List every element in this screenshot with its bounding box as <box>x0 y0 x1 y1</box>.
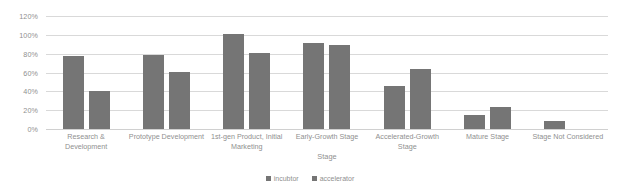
bar-incubtor[interactable] <box>544 121 565 129</box>
bar-incubtor[interactable] <box>303 43 324 129</box>
bar-group <box>46 16 126 129</box>
bar-incubtor[interactable] <box>143 55 164 129</box>
y-axis-tick-label: 80% <box>23 49 38 58</box>
bar-groups <box>46 16 608 129</box>
bar-accelerator[interactable] <box>329 45 350 129</box>
bar-group <box>287 16 367 129</box>
bar-accelerator[interactable] <box>249 53 270 129</box>
legend-label: incubtor <box>274 175 299 182</box>
y-axis-tick-label: 60% <box>23 68 38 77</box>
legend-item[interactable]: incubtor <box>266 175 299 182</box>
bar-group <box>447 16 527 129</box>
bar-accelerator[interactable] <box>89 91 110 129</box>
x-axis-category-label: Early-Growth Stage <box>287 132 367 151</box>
legend-swatch-icon <box>312 176 317 181</box>
y-axis-tick-label: 100% <box>19 30 38 39</box>
bar-accelerator[interactable] <box>410 69 431 129</box>
x-axis-category-label: Research & Development <box>46 132 126 151</box>
bar-group <box>367 16 447 129</box>
y-axis-tick-label: 20% <box>23 106 38 115</box>
bar-incubtor[interactable] <box>464 115 485 129</box>
legend-item[interactable]: accelerator <box>312 175 355 182</box>
bar-incubtor[interactable] <box>223 34 244 129</box>
y-axis: 120%100%80%60%40%20%0% <box>0 16 44 129</box>
bar-accelerator[interactable] <box>490 107 511 129</box>
bar-group <box>207 16 287 129</box>
bar-chart: 120%100%80%60%40%20%0% Research & Develo… <box>0 0 620 191</box>
axis-baseline <box>46 129 608 130</box>
bar-group <box>126 16 206 129</box>
x-axis-labels: Research & DevelopmentPrototype Developm… <box>46 132 608 151</box>
bar-accelerator[interactable] <box>169 72 190 129</box>
bar-group <box>528 16 608 129</box>
x-axis-category-label: Mature Stage <box>447 132 527 151</box>
bar-incubtor[interactable] <box>384 86 405 129</box>
x-axis-category-label: 1st-gen Product, Initial Marketing <box>207 132 287 151</box>
legend-swatch-icon <box>266 176 271 181</box>
y-axis-tick-label: 0% <box>27 125 38 134</box>
y-axis-tick-label: 40% <box>23 87 38 96</box>
x-axis-category-label: Accelerated-Growth Stage <box>367 132 447 151</box>
x-axis-category-label: Stage Not Considered <box>528 132 608 151</box>
legend-label: accelerator <box>320 175 355 182</box>
plot-area <box>46 16 608 129</box>
y-axis-tick-label: 120% <box>19 12 38 21</box>
chart-legend: incubtoraccelerator <box>0 175 620 182</box>
x-axis-category-label: Prototype Development <box>126 132 206 151</box>
x-axis-title: Stage <box>46 152 608 161</box>
bar-incubtor[interactable] <box>63 56 84 129</box>
